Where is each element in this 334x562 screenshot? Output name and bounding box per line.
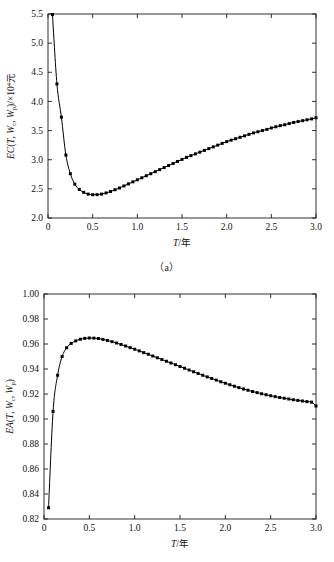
x-tick-label: 0.5 [87, 222, 99, 232]
y-tick-label: 0.90 [22, 414, 39, 424]
data-point-marker [301, 400, 304, 403]
data-point-marker [111, 340, 114, 343]
data-point-marker [228, 383, 231, 386]
y-tick-label: 0.82 [22, 514, 39, 524]
data-point-marker [149, 172, 152, 175]
data-point-marker [188, 369, 191, 372]
data-point-marker [224, 382, 227, 385]
y-tick-label: 2.5 [31, 184, 43, 194]
data-point-marker [100, 193, 103, 196]
data-point-marker [136, 178, 139, 181]
x-tick-label: 0.5 [83, 523, 95, 533]
plot-frame [44, 294, 316, 519]
y-tick-label: 2.0 [31, 213, 43, 223]
x-axis-title: T/年 [171, 538, 189, 548]
x-tick-label: 1.5 [176, 222, 188, 232]
y-tick-label: 5.5 [31, 9, 43, 19]
x-tick-label: 2.5 [265, 523, 277, 533]
data-point-marker [310, 401, 313, 404]
y-tick-label: 3.5 [31, 126, 43, 136]
data-point-marker [92, 337, 95, 340]
data-point-marker [96, 193, 99, 196]
y-tick-label: 1.00 [22, 289, 39, 299]
data-point-marker [201, 374, 204, 377]
data-point-marker [301, 119, 304, 122]
data-point-marker [127, 182, 130, 185]
data-point-marker [167, 164, 170, 167]
y-tick-label: 0.88 [22, 439, 39, 449]
data-point-marker [51, 13, 54, 16]
data-point-marker [233, 385, 236, 388]
data-point-marker [142, 351, 145, 354]
x-tick-label: 2.5 [265, 222, 277, 232]
data-point-marker [165, 360, 168, 363]
data-point-marker [101, 338, 104, 341]
data-point-marker [172, 162, 175, 165]
data-point-marker [122, 184, 125, 187]
data-point-marker [158, 168, 161, 171]
data-point-marker [260, 392, 263, 395]
data-point-marker [225, 140, 228, 143]
chart-b-svg: 0.820.840.860.880.900.920.940.960.981.00… [0, 280, 334, 548]
data-point-marker [242, 388, 245, 391]
data-point-marker [234, 137, 237, 140]
data-point-marker [129, 346, 132, 349]
data-point-marker [197, 372, 200, 375]
data-point-marker [151, 355, 154, 358]
data-point-marker [109, 190, 112, 193]
data-point-marker [69, 172, 72, 175]
data-point-marker [97, 337, 100, 340]
data-point-marker [283, 397, 286, 400]
data-point-marker [248, 133, 251, 136]
data-point-marker [114, 188, 117, 191]
y-tick-label: 4.5 [31, 67, 43, 77]
data-point-marker [192, 370, 195, 373]
chart-b-container: 0.820.840.860.880.900.920.940.960.981.00… [0, 280, 334, 548]
data-point-marker [292, 398, 295, 401]
x-tick-label: 0 [46, 222, 51, 232]
x-tick-label: 2.0 [219, 523, 231, 533]
data-point-marker [215, 379, 218, 382]
data-point-marker [83, 337, 86, 340]
data-point-marker [163, 166, 166, 169]
data-point-marker [154, 170, 157, 173]
data-point-marker [279, 124, 282, 127]
y-tick-label: 0.86 [22, 464, 39, 474]
x-tick-label: 0 [42, 523, 47, 533]
data-point-marker [216, 144, 219, 147]
x-tick-label: 1.0 [131, 222, 143, 232]
data-point-marker [237, 386, 240, 389]
data-point-marker [261, 129, 264, 132]
plot-frame [48, 14, 316, 218]
figure-panel-a: 2.02.53.03.54.04.55.05.500.51.01.52.02.5… [0, 0, 334, 280]
data-point-marker [91, 193, 94, 196]
data-point-marker [74, 339, 77, 342]
x-axis-title: T/年 [173, 237, 191, 248]
x-tick-label: 3.0 [310, 222, 322, 232]
y-tick-label: 0.84 [22, 489, 39, 499]
data-point-marker [105, 191, 108, 194]
data-point-marker [278, 396, 281, 399]
data-point-marker [212, 145, 215, 148]
data-point-marker [265, 128, 268, 131]
data-point-marker [174, 363, 177, 366]
data-point-marker [131, 180, 134, 183]
chart-a-container: 2.02.53.03.54.04.55.05.500.51.01.52.02.5… [0, 0, 334, 258]
data-point-marker [315, 405, 318, 408]
data-point-marker [198, 151, 201, 154]
data-point-marker [169, 362, 172, 365]
x-tick-label: 1.0 [129, 523, 141, 533]
data-point-marker [88, 337, 91, 340]
data-point-marker [160, 358, 163, 361]
data-point-marker [283, 123, 286, 126]
data-point-marker [230, 139, 233, 142]
data-point-marker [207, 147, 210, 150]
data-point-marker [47, 506, 50, 509]
data-point-marker [73, 183, 76, 186]
data-point-marker [296, 399, 299, 402]
data-point-marker [138, 349, 141, 352]
data-point-marker [183, 367, 186, 370]
data-point-marker [310, 117, 313, 120]
y-tick-label: 0.92 [22, 389, 39, 399]
data-point-marker [56, 374, 59, 377]
